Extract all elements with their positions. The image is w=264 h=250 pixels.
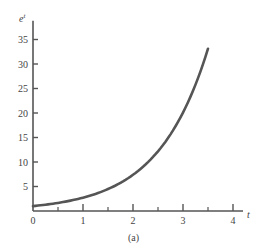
chart-caption: (a) xyxy=(128,232,139,244)
x-tick-label: 3 xyxy=(181,215,186,226)
y-axis: 5101520253035 xyxy=(18,21,38,211)
x-axis: 01234 xyxy=(31,204,244,226)
y-tick-label: 35 xyxy=(18,34,28,45)
y-axis-label: et xyxy=(19,12,26,24)
x-axis-label: t xyxy=(247,209,250,220)
y-tick-label: 25 xyxy=(18,83,28,94)
y-tick-label: 20 xyxy=(18,108,28,119)
exp-curve xyxy=(33,49,208,206)
y-tick-label: 5 xyxy=(23,181,28,192)
x-tick-label: 2 xyxy=(131,215,136,226)
x-tick-label: 0 xyxy=(31,215,36,226)
exponential-chart: 5101520253035 01234 et t (a) xyxy=(0,0,264,250)
y-tick-label: 30 xyxy=(18,59,28,70)
y-tick-label: 10 xyxy=(18,157,28,168)
x-tick-label: 4 xyxy=(231,215,236,226)
x-tick-label: 1 xyxy=(81,215,86,226)
y-tick-label: 15 xyxy=(18,132,28,143)
